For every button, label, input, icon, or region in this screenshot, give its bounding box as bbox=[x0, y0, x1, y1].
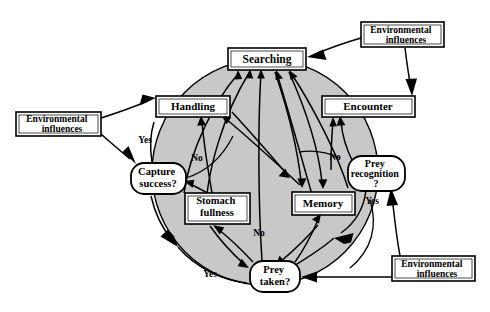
edge-label-no-preytaken: No bbox=[253, 228, 265, 238]
node-handling[interactable]: Handling bbox=[156, 96, 230, 117]
node-searching-label: Searching bbox=[243, 53, 292, 66]
node-memory[interactable]: Memory bbox=[292, 192, 355, 215]
node-searching[interactable]: Searching bbox=[228, 48, 306, 70]
edge-label-no-recognition: No bbox=[329, 152, 341, 162]
node-stomach-fullness[interactable]: Stomach fullness bbox=[185, 193, 250, 224]
edge-label-yes-preytaken: Yes bbox=[203, 269, 217, 279]
flow-diagram: Searching Handling Encounter Memory Stom… bbox=[0, 0, 490, 312]
node-stomach-fullness-label: Stomach fullness bbox=[196, 195, 238, 218]
edge-envbotright-recognition[interactable] bbox=[387, 188, 401, 256]
node-handling-label: Handling bbox=[171, 100, 216, 112]
node-memory-label: Memory bbox=[303, 197, 344, 209]
node-env-topright[interactable]: Environmental influences bbox=[361, 22, 444, 47]
edge-label-no-capture: No bbox=[191, 153, 203, 163]
node-env-left[interactable]: Environmental influences bbox=[16, 112, 101, 136]
edge-label-yes-capture: Yes bbox=[138, 135, 152, 145]
node-capture-success-label: Capture success? bbox=[138, 166, 178, 189]
node-capture-success[interactable]: Capture success? bbox=[131, 163, 186, 194]
edge-envtopright-encounter[interactable] bbox=[405, 48, 417, 96]
edge-label-yes-recognition: Yes bbox=[365, 196, 379, 206]
edge-envtopright-searching[interactable] bbox=[307, 38, 361, 60]
node-prey-recognition[interactable]: Prey recognition ? bbox=[348, 156, 405, 191]
node-encounter-label: Encounter bbox=[343, 100, 393, 112]
node-prey-taken[interactable]: Prey taken? bbox=[250, 261, 300, 292]
node-prey-taken-label: Prey taken? bbox=[260, 264, 290, 287]
diagram-canvas: Searching Handling Encounter Memory Stom… bbox=[0, 0, 490, 312]
edge-envleft-handling[interactable] bbox=[101, 95, 156, 119]
node-encounter[interactable]: Encounter bbox=[322, 96, 415, 117]
node-env-botright[interactable]: Environmental influences bbox=[392, 256, 475, 281]
edge-envbotright-preytaken[interactable] bbox=[301, 272, 392, 283]
edge-envleft-capture[interactable] bbox=[101, 134, 136, 164]
